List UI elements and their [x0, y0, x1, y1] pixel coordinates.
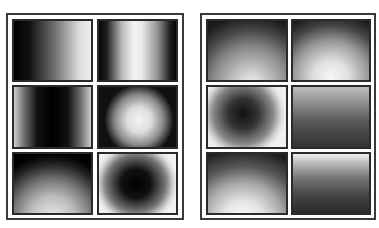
- tile-horizontal-ramp: [12, 19, 93, 82]
- tile-bright-vertical-band: [97, 19, 178, 82]
- tile-radial-bright-center: [97, 85, 178, 149]
- tile-vertical-ramp: [291, 85, 371, 149]
- tile-radial-dark-center-soft: [206, 85, 288, 149]
- tile-bottom-glow: [206, 19, 288, 82]
- tile-bottom-glow-strong: [291, 19, 371, 82]
- right-shading-panel: [200, 13, 376, 220]
- tile-bright-top-edge: [291, 152, 371, 215]
- tile-bottom-glow-bright: [206, 152, 288, 215]
- tile-radial-dark-center: [97, 152, 178, 215]
- tile-dark-vertical-band: [12, 85, 93, 149]
- tile-radial-bright-bottom: [12, 152, 93, 215]
- left-shading-panel: [6, 13, 184, 220]
